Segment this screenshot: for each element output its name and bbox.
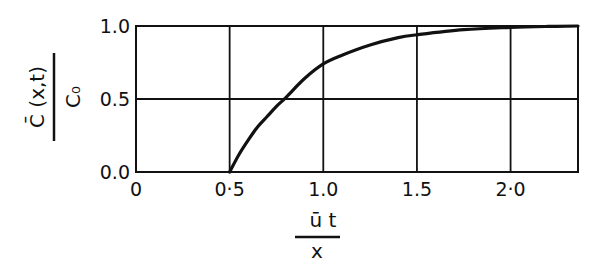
x-tick-label: 1.5 [402,178,432,200]
y-tick-label: 0.0 [100,161,130,183]
x-tick-label: 1.0 [308,178,338,200]
y-tick-label: 1.0 [100,15,130,37]
y-axis-label: C̄ (x,t) C₀ [24,53,85,141]
x-label-denominator: x [311,239,323,263]
x-tick-labels: 00·51.01.52·0 [130,178,526,200]
y-tick-label: 0.5 [100,88,130,110]
y-tick-labels: 0.00.51.0 [100,15,130,183]
x-tick-label: 0·5 [215,178,245,200]
x-tick-label: 2·0 [495,178,525,200]
y-label-denominator: C₀ [61,86,85,108]
x-tick-label: 0 [130,178,142,200]
x-axis-label: ū t x [295,208,340,263]
x-label-numerator: ū t [310,208,337,232]
chart: 00·51.01.52·0 0.00.51.0 C̄ (x,t) C₀ ū t … [0,0,594,269]
y-label-numerator: C̄ (x,t) [24,66,49,128]
